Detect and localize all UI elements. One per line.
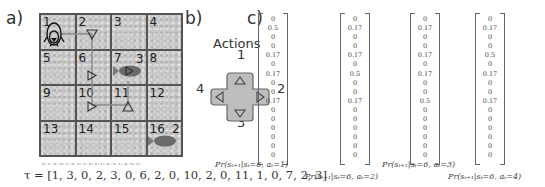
grid-cell: 1 <box>40 14 76 50</box>
vector-caption: Pr(sₜ₊₁|sₜ=6, aₜ=2) <box>305 172 378 181</box>
cell-number: 15 <box>114 122 129 136</box>
vector-entry: 0 <box>410 106 440 115</box>
vector-entry: 0 <box>475 15 505 24</box>
vector-entry: 0 <box>475 151 505 160</box>
vector-entry: 0 <box>340 133 370 142</box>
vector-entry: 0.17 <box>410 70 440 79</box>
vector-entry: 0 <box>475 60 505 69</box>
vector-entry: 0 <box>475 42 505 51</box>
grid-cell: 7 <box>111 50 147 86</box>
grid-cell: 16 <box>147 121 183 157</box>
cell-number: 4 <box>150 15 158 29</box>
cell-number: 7 <box>114 51 122 65</box>
cell-number: 13 <box>43 122 58 136</box>
vector-entry: 0 <box>475 33 505 42</box>
vector-entry: 0 <box>340 79 370 88</box>
vector-entry: 0 <box>410 133 440 142</box>
action-up-number: 1 <box>237 47 245 62</box>
vector-entry: 0 <box>340 15 370 24</box>
vector-entry: 0.17 <box>340 51 370 60</box>
vector-caption: Pr(sₜ₊₁|sₜ=6, aₜ=3) <box>382 160 455 169</box>
cell-number: 12 <box>150 86 165 100</box>
grid-cell: 11 <box>111 85 147 121</box>
cell-number: 5 <box>43 51 51 65</box>
vector-entry: 0 <box>410 88 440 97</box>
grid-cell: 14 <box>76 121 112 157</box>
vector-entry: 0 <box>410 115 440 124</box>
vector-entry: 0 <box>258 15 288 24</box>
vector-entry: 0 <box>410 79 440 88</box>
vector-entry: 0.5 <box>475 51 505 60</box>
vector-entry: 0 <box>410 15 440 24</box>
grid-world: 1 2 3 4 5 6 7 8 9 10 11 12 13 14 15 16 <box>39 13 183 157</box>
action-left-number: 4 <box>196 81 204 96</box>
vector-entry: 0 <box>340 42 370 51</box>
cell-number: 10 <box>79 86 94 100</box>
vector-entry: 0 <box>258 60 288 69</box>
grid-cell: 3 <box>111 14 147 50</box>
vector-entry: 0 <box>340 106 370 115</box>
trajectory-sequence: τ = [1, 3, 0, 2, 3, 0, 6, 2, 0, 10, 2, 0… <box>24 168 327 182</box>
cell-number: 8 <box>150 51 158 65</box>
vector-entry: 0 <box>410 142 440 151</box>
grid-cell: 2 <box>76 14 112 50</box>
grid-cell: 10 <box>76 85 112 121</box>
vector-caption: Pr(sₜ₊₁|sₜ=6, aₜ=4) <box>448 172 521 181</box>
vector-entry: 0.17 <box>340 97 370 106</box>
vector-entry: 0 <box>475 88 505 97</box>
vector-entry: 0 <box>340 33 370 42</box>
vector-entry: 0 <box>475 106 505 115</box>
cell-number: 16 <box>150 122 165 136</box>
vector-entry: 0.17 <box>475 24 505 33</box>
vector-entry: 0 <box>258 79 288 88</box>
grid-cell: 12 <box>147 85 183 121</box>
vector-entry: 0.5 <box>340 70 370 79</box>
vector-entry: 0.17 <box>340 24 370 33</box>
vector-entry: 0 <box>475 79 505 88</box>
vector-entry: 0 <box>475 142 505 151</box>
vector-entry: 0 <box>340 88 370 97</box>
vector-entry: 0 <box>258 33 288 42</box>
panel-label-a: a) <box>6 8 23 28</box>
vector-entry: 0 <box>410 124 440 133</box>
vector-entry: 0.5 <box>258 24 288 33</box>
vector-entry: 0 <box>258 142 288 151</box>
grid-cell: 6 <box>76 50 112 86</box>
vector-entry: 0 <box>258 115 288 124</box>
grid-cell: 13 <box>40 121 76 157</box>
cell-number: 6 <box>79 51 87 65</box>
vector-entry: 0 <box>340 142 370 151</box>
vector-entry: 0.17 <box>258 70 288 79</box>
vector-entry: 0 <box>340 60 370 69</box>
vector-caption: Pr(sₜ₊₁|sₜ=6, aₜ=1) <box>215 160 288 169</box>
vector-entry: 0.17 <box>410 51 440 60</box>
grid-cell: 5 <box>40 50 76 86</box>
panel-label-b: b) <box>185 8 202 28</box>
vector-entry: 0 <box>340 124 370 133</box>
vector-entry: 0 <box>475 124 505 133</box>
vector-entry: 0 <box>475 133 505 142</box>
grid-cell: 9 <box>40 85 76 121</box>
cell-number: 2 <box>79 15 87 29</box>
cell-number: 11 <box>114 86 129 100</box>
vector-entry: 0 <box>410 60 440 69</box>
cell-number: 3 <box>114 15 122 29</box>
vector-entry: 0 <box>410 33 440 42</box>
vector-entry: 0 <box>258 124 288 133</box>
vector-entry: 0 <box>258 42 288 51</box>
grid-cell: 8 <box>147 50 183 86</box>
grid-cell: 15 <box>111 121 147 157</box>
cell-number: 1 <box>43 15 51 29</box>
vector-entry: 0.17 <box>410 24 440 33</box>
vector-entry: 0 <box>258 106 288 115</box>
vector-entry: 0.5 <box>410 97 440 106</box>
vector-entry: 0.17 <box>475 70 505 79</box>
cell-number: 14 <box>79 122 94 136</box>
cell-number: 9 <box>43 86 51 100</box>
vector-entry: 0 <box>258 88 288 97</box>
grid-cell: 4 <box>147 14 183 50</box>
vector-entry: 0.17 <box>258 97 288 106</box>
vector-entry: 0.17 <box>258 51 288 60</box>
vector-entry: 0 <box>340 151 370 160</box>
vector-entry: 0 <box>340 115 370 124</box>
